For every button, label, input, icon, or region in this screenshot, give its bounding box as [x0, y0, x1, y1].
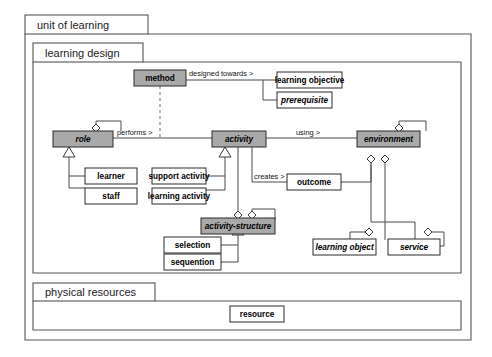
class-label-outcome: outcome — [297, 178, 332, 187]
class-support-activity[interactable]: support activity — [149, 168, 210, 184]
association-label-using: using > — [296, 128, 320, 137]
class-label-resource: resource — [240, 310, 275, 319]
diagram-canvas: unit of learning learning design physica… — [0, 0, 492, 357]
class-label-activity-structure: activity-structure — [205, 222, 272, 231]
class-activity-structure[interactable]: activity-structure — [201, 218, 275, 234]
class-activity[interactable]: activity — [212, 131, 266, 147]
class-label-learning-object: learning object — [315, 243, 374, 252]
class-staff[interactable]: staff — [85, 188, 137, 204]
class-label-learning-objective: learning objective — [275, 76, 345, 85]
class-label-staff: staff — [102, 192, 120, 201]
class-label-learner: learner — [97, 172, 125, 181]
package-label-learning-design: learning design — [45, 47, 120, 59]
class-label-support-activity: support activity — [149, 172, 210, 181]
class-label-prerequisite: prerequisite — [280, 96, 328, 105]
class-label-service: service — [400, 243, 429, 252]
association-label-performs: performs > — [117, 128, 153, 137]
class-label-method: method — [145, 74, 175, 83]
class-environment[interactable]: environment — [357, 131, 420, 147]
association-label-creates: creates > — [254, 172, 285, 181]
class-selection[interactable]: selection — [164, 237, 221, 253]
class-label-activity: activity — [225, 135, 254, 144]
package-label-unit-of-learning: unit of learning — [37, 19, 109, 31]
class-label-selection: selection — [175, 241, 211, 250]
class-method[interactable]: method — [134, 70, 186, 86]
association-label-designed-towards: designed towards > — [189, 69, 253, 78]
class-learning-activity[interactable]: learning activity — [148, 188, 211, 204]
package-label-physical-resources: physical resources — [45, 286, 137, 298]
class-resource[interactable]: resource — [230, 306, 284, 322]
class-learner[interactable]: learner — [85, 168, 137, 184]
class-label-role: role — [75, 135, 90, 144]
class-label-learning-activity: learning activity — [148, 192, 211, 201]
class-prerequisite[interactable]: prerequisite — [277, 92, 332, 108]
class-label-sequention: sequention — [171, 258, 215, 267]
class-service[interactable]: service — [388, 239, 440, 255]
class-label-environment: environment — [364, 135, 413, 144]
class-learning-objective[interactable]: learning objective — [275, 72, 345, 88]
class-role[interactable]: role — [53, 131, 113, 147]
class-outcome[interactable]: outcome — [287, 174, 341, 190]
class-sequention[interactable]: sequention — [164, 254, 221, 270]
class-learning-object[interactable]: learning object — [313, 239, 376, 255]
